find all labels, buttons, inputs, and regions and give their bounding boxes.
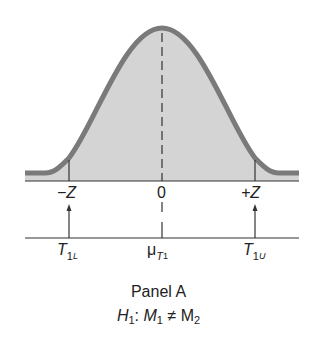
h-prefix: H [117, 307, 129, 324]
panel-title: Panel A [0, 284, 317, 300]
z-label-center: 0 [157, 185, 166, 201]
h-lhs: M [144, 307, 157, 324]
lower-arrow-head [67, 204, 72, 211]
upper-arrow-head [253, 204, 258, 211]
h-rhs: M [181, 307, 194, 324]
h-prefix-sub: 1 [128, 314, 134, 326]
mu-symbol: μ [147, 241, 156, 258]
t-upper-sub: 1 [253, 250, 259, 262]
z-label-upper: +Z [241, 185, 260, 201]
t-label-center: μT1 [147, 242, 168, 258]
t-lower-sub: 1 [67, 250, 73, 262]
t-upper-subsub: U [259, 251, 266, 261]
mu-sub: T [156, 250, 163, 262]
t-label-lower: T1L [57, 242, 78, 258]
t-upper-main: T [243, 241, 253, 258]
t-lower-main: T [57, 241, 67, 258]
h-op: ≠ [167, 307, 176, 324]
hypothesis: H1: M1 ≠ M2 [0, 308, 317, 324]
z-label-lower: −Z [57, 185, 76, 201]
t-label-upper: T1U [243, 242, 265, 258]
h-rhs-sub: 2 [194, 314, 200, 326]
h-lhs-sub: 1 [157, 314, 163, 326]
h-colon: : [135, 307, 139, 324]
mu-subsub: 1 [163, 251, 168, 261]
t-lower-subsub: L [73, 251, 78, 261]
